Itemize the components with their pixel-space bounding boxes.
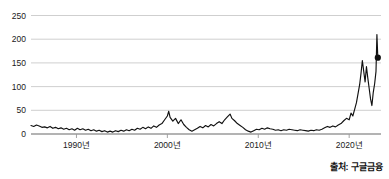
y-tick-label-150: 150	[12, 58, 26, 68]
x-axis-tick-labels: 1990년2000년2010년2020년	[63, 140, 363, 150]
price-line-series	[31, 34, 378, 132]
y-tick-label-50: 50	[17, 105, 27, 115]
latest-value-marker	[375, 55, 381, 61]
y-axis-tick-labels: 050100150200250	[12, 11, 26, 140]
y-tick-label-100: 100	[12, 82, 26, 92]
x-tick-label-1990: 1990년	[63, 140, 90, 150]
gridlines-group	[31, 16, 381, 135]
y-tick-label-250: 250	[12, 11, 26, 21]
x-tick-label-2020: 2020년	[336, 140, 363, 150]
source-note: 출처: 구글금융	[330, 160, 384, 173]
stock-price-chart-figure: 050100150200250 1990년2000년2010년2020년 출처:…	[0, 0, 389, 179]
y-tick-label-200: 200	[12, 34, 26, 44]
chart-plot-svg: 050100150200250 1990년2000년2010년2020년	[0, 0, 389, 179]
y-tick-label-0: 0	[21, 129, 26, 139]
x-tick-label-2000: 2000년	[154, 140, 181, 150]
x-tick-label-2010: 2010년	[245, 140, 272, 150]
